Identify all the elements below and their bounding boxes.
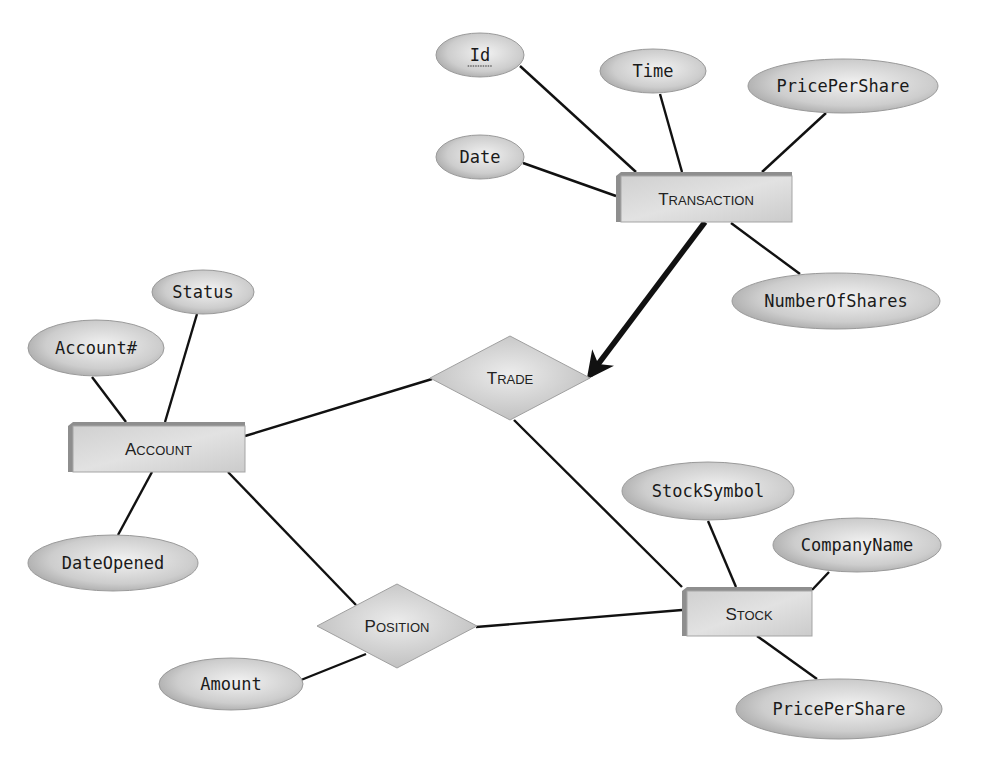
link-account-position <box>228 472 356 605</box>
attribute-stk-companyname[interactable]: CompanyName <box>773 518 941 572</box>
attribute-label: Status <box>172 282 233 302</box>
attribute-stk-pricepershare[interactable]: PricePerShare <box>736 679 942 739</box>
link-pos-amount-position <box>301 654 366 680</box>
arrow-layer <box>590 222 705 375</box>
relationship-position[interactable]: POSITION <box>317 584 477 668</box>
relationship-label: TRADE <box>487 369 534 388</box>
attribute-label: Time <box>633 61 674 81</box>
attribute-label: PricePerShare <box>776 76 909 96</box>
link-account-trade <box>245 379 432 436</box>
link-account-acc-dateopened <box>118 472 152 535</box>
link-txn-pricepershare-transaction <box>762 113 826 172</box>
entity-label: STOCK <box>725 605 773 624</box>
relationship-label: POSITION <box>365 617 430 636</box>
link-position-stock <box>476 610 682 627</box>
relationship-trade[interactable]: TRADE <box>430 336 590 420</box>
entity-account[interactable]: ACCOUNT <box>68 422 245 472</box>
relationships-layer: TRADEPOSITION <box>317 336 590 668</box>
link-stk-companyname-stock <box>812 572 829 590</box>
attribute-acc-accountnum[interactable]: Account# <box>28 320 164 376</box>
link-acc-accountnum-account <box>92 377 126 422</box>
attribute-label: NumberOfShares <box>764 291 907 311</box>
attribute-txn-id[interactable]: Id <box>436 33 524 77</box>
attribute-label: Account# <box>55 338 138 358</box>
entity-transaction[interactable]: TRANSACTION <box>616 172 792 222</box>
link-acc-status-account <box>165 314 197 422</box>
attribute-label: PricePerShare <box>772 699 905 719</box>
attribute-label: CompanyName <box>801 535 914 555</box>
attribute-label: Amount <box>200 674 261 694</box>
attribute-stk-stocksymbol[interactable]: StockSymbol <box>622 462 794 520</box>
attribute-txn-time[interactable]: Time <box>600 49 706 93</box>
attribute-label: StockSymbol <box>652 481 765 501</box>
entity-stock[interactable]: STOCK <box>682 587 812 636</box>
entity-label: ACCOUNT <box>125 440 192 459</box>
attribute-label: Id <box>470 45 490 65</box>
entity-label: TRANSACTION <box>658 190 754 209</box>
er-diagram: IdTimePricePerShareDateNumberOfSharesSta… <box>0 0 981 763</box>
attribute-txn-numberofshares[interactable]: NumberOfShares <box>732 273 940 329</box>
attribute-acc-dateopened[interactable]: DateOpened <box>28 535 198 591</box>
link-transaction-txn-numberofshares <box>731 223 800 274</box>
arrow-transaction-trade <box>590 222 705 375</box>
link-txn-date-transaction <box>523 163 616 196</box>
attribute-label: DateOpened <box>62 553 164 573</box>
link-stk-stocksymbol-stock <box>708 521 736 587</box>
attribute-txn-pricepershare[interactable]: PricePerShare <box>748 59 938 113</box>
link-txn-time-transaction <box>660 94 682 172</box>
attribute-acc-status[interactable]: Status <box>152 270 254 314</box>
attribute-pos-amount[interactable]: Amount <box>159 658 303 710</box>
attribute-label: Date <box>460 147 501 167</box>
link-stock-stk-pricepershare <box>757 636 817 679</box>
attribute-txn-date[interactable]: Date <box>436 135 524 179</box>
